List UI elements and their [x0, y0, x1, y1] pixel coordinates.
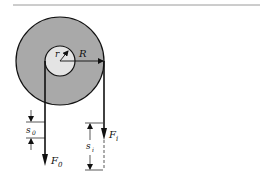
label-s0-sub: 0 [32, 129, 36, 136]
label-Fi-sub: i [116, 135, 118, 143]
wheel-and-axle-diagram: r R F 0 s 0 F i s i [0, 0, 267, 183]
label-si-sub: i [92, 146, 94, 153]
label-r: r [55, 49, 60, 59]
label-s0: s [26, 125, 31, 135]
input-force-arrowhead [101, 128, 107, 140]
label-F0-sub: 0 [58, 161, 63, 169]
label-si: s [86, 141, 91, 151]
label-R: R [78, 48, 87, 59]
output-force-arrowhead [42, 154, 48, 166]
